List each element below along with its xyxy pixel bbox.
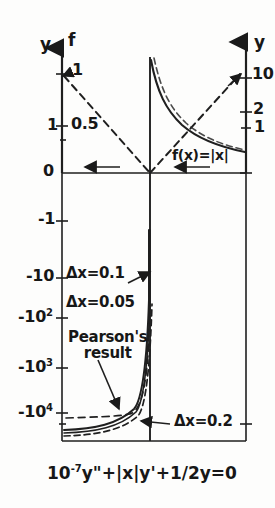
annotation-pearson: Pearson's result <box>68 330 147 362</box>
annotation-pearson-line2: result <box>84 344 132 362</box>
series-upper-branch <box>151 60 245 152</box>
right-tick-10: 10 <box>252 66 274 82</box>
equation-rest: y"+|x|y'+1/2y=0 <box>82 463 237 483</box>
leader-ten <box>228 74 241 86</box>
left-tick-neg1: -1 <box>38 211 55 227</box>
left-tick-neg10-2: -102 <box>18 308 53 325</box>
left-tick-neg10: -10 <box>26 268 54 284</box>
annotation-dx-005: Δx=0.05 <box>66 295 135 310</box>
figure-container: y f 1 1 0.5 0 -1 -10 -102 -103 -104 y 10… <box>0 0 275 508</box>
left-tick-0: 0 <box>43 163 54 179</box>
left-tick-neg10-2-base: -10 <box>18 307 46 326</box>
left-tick-neg10-4: -104 <box>18 403 53 420</box>
annotation-fofx: f(x)=|x| <box>172 148 229 162</box>
left-tick-neg10-4-exp: 4 <box>46 402 53 413</box>
left-tick-neg10-3-exp: 3 <box>46 357 53 368</box>
annotation-dx-01: Δx=0.1 <box>66 266 125 281</box>
left-tick-neg10-3: -103 <box>18 358 53 375</box>
annotation-dx-02: Δx=0.2 <box>174 414 233 429</box>
left-axis-name-f: f <box>68 32 75 49</box>
leader-dx-02 <box>141 421 170 424</box>
equation-exponent: -7 <box>71 463 82 474</box>
equation-caption: 10-7y"+|x|y'+1/2y=0 <box>47 464 237 482</box>
right-axis-name-y: y <box>254 34 265 51</box>
leader-dx-01 <box>128 272 150 283</box>
left-tick-neg10-2-exp: 2 <box>46 307 53 318</box>
left-tick-1-inner: 1 <box>72 62 83 78</box>
left-axis-name-y: y <box>40 36 51 53</box>
equation-base: 10 <box>47 463 71 483</box>
left-tick-neg10-4-base: -10 <box>18 402 46 421</box>
right-tick-1: 1 <box>254 119 265 135</box>
plot-canvas <box>0 0 275 508</box>
left-tick-05: 0.5 <box>71 116 98 132</box>
right-tick-2: 2 <box>253 101 264 117</box>
leader-pearson <box>98 360 119 409</box>
left-tick-1-outer: 1 <box>47 117 58 133</box>
left-tick-neg10-3-base: -10 <box>18 357 46 376</box>
